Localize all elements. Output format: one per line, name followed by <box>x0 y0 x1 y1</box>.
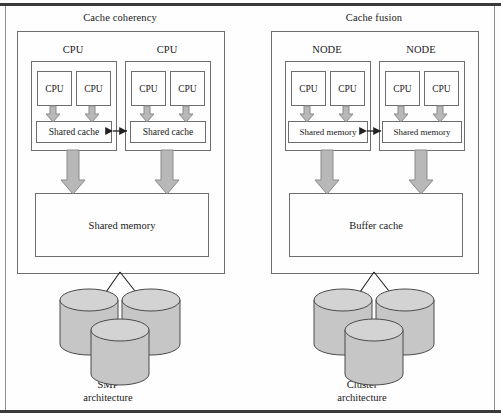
left-group-1-cpu-1: CPU <box>170 71 205 106</box>
left-panel-title: Cache coherency <box>17 12 223 23</box>
left-shared-block: Shared memory <box>35 193 209 257</box>
frame-bottom-rule <box>0 410 501 413</box>
disk-cylinder-icon <box>60 289 180 385</box>
cpu-label: CPU <box>178 84 196 94</box>
right-shared-block: Buffer cache <box>289 193 463 257</box>
memory-label: Shared cache <box>49 127 99 137</box>
cpu-label: CPU <box>45 84 63 94</box>
cpu-label: CPU <box>299 84 317 94</box>
right-group-0-memory: Shared memory <box>288 121 368 143</box>
right-group-0-label: NODE <box>285 44 369 55</box>
frame-top-rule <box>0 3 501 6</box>
frame-right-rule <box>494 6 495 410</box>
left-group-0-cpu-1: CPU <box>76 71 111 106</box>
cpu-label: CPU <box>432 84 450 94</box>
right-group-0-cpu-0: CPU <box>291 71 326 106</box>
right-group-1-memory: Shared memory <box>382 121 462 143</box>
cpu-label: CPU <box>139 84 157 94</box>
memory-label: Shared memory <box>393 127 450 137</box>
right-storage-label: Cluster architecture <box>312 378 412 404</box>
cpu-label: CPU <box>393 84 411 94</box>
shared-block-label: Shared memory <box>89 220 156 231</box>
cpu-label: CPU <box>338 84 356 94</box>
left-storage-label: SMP architecture <box>58 378 158 404</box>
right-panel-title: Cache fusion <box>271 12 477 23</box>
panel-to-disk-connector <box>97 272 146 305</box>
left-storage-label-line2: architecture <box>58 391 158 404</box>
right-group-1-cpu-0: CPU <box>385 71 420 106</box>
memory-label: Shared memory <box>299 127 356 137</box>
disk-cylinder-icon <box>314 289 434 385</box>
left-group-1-label: CPU <box>125 44 209 55</box>
left-group-0-label: CPU <box>31 44 115 55</box>
left-group-1-cpu-0: CPU <box>131 71 166 106</box>
left-group-0-cpu-0: CPU <box>37 71 72 106</box>
memory-label: Shared cache <box>143 127 193 137</box>
panel-to-disk-connector <box>351 272 400 305</box>
right-group-1-label: NODE <box>379 44 463 55</box>
shared-block-label: Buffer cache <box>349 220 403 231</box>
right-group-1-cpu-1: CPU <box>424 71 459 106</box>
cpu-label: CPU <box>84 84 102 94</box>
right-storage-label-line2: architecture <box>312 391 412 404</box>
frame-left-rule <box>5 6 6 410</box>
right-group-0-cpu-1: CPU <box>330 71 365 106</box>
figure-canvas: Cache coherency CPU CPU CPU Shared cache… <box>0 0 501 420</box>
left-storage-label-line1: SMP <box>58 378 158 391</box>
left-group-0-memory: Shared cache <box>36 121 112 143</box>
right-storage-label-line1: Cluster <box>312 378 412 391</box>
left-group-1-memory: Shared cache <box>130 121 206 143</box>
